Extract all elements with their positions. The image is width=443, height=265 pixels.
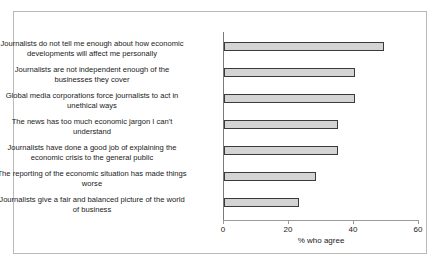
category-label: Journalists give a fair and balanced pic…: [0, 195, 188, 214]
category-label: Global media corporations force journali…: [0, 91, 188, 110]
x-axis-tick: [418, 220, 419, 224]
bar[interactable]: [224, 172, 316, 181]
category-label: Journalists have done a good job of expl…: [0, 143, 188, 162]
x-axis-tick: [288, 220, 289, 224]
category-label: The reporting of the economic situation …: [0, 169, 188, 188]
bar[interactable]: [224, 68, 355, 77]
bar-chart-plot-area: 0 20 40 60 Journalists do not tell me en…: [14, 12, 426, 253]
category-label: The news has too much economic jargon I …: [0, 117, 188, 136]
bar[interactable]: [224, 198, 299, 207]
x-tick-label: 60: [414, 225, 423, 234]
category-label: Journalists are not independent enough o…: [0, 65, 188, 84]
x-tick-label: 40: [349, 225, 358, 234]
x-axis-tick: [223, 220, 224, 224]
x-axis-line: [223, 220, 419, 221]
chart-figure: 0 20 40 60 Journalists do not tell me en…: [13, 11, 427, 254]
bar[interactable]: [224, 94, 355, 103]
x-axis-tick: [353, 220, 354, 224]
x-tick-label: 0: [221, 225, 225, 234]
bar[interactable]: [224, 120, 338, 129]
bar[interactable]: [224, 146, 338, 155]
category-label: Journalists do not tell me enough about …: [0, 39, 188, 58]
x-tick-label: 20: [284, 225, 293, 234]
x-axis-title: % who agree: [223, 236, 419, 245]
bar[interactable]: [224, 42, 384, 51]
